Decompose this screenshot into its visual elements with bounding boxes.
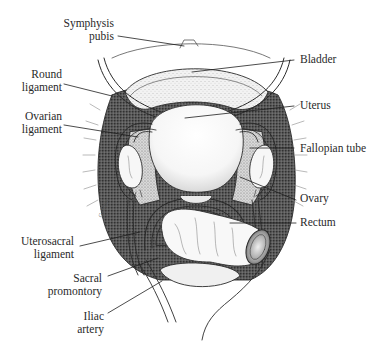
- label-uterosacral-ligament: Uterosacral ligament: [21, 235, 74, 260]
- anatomy-diagram: Gebhart Symphysis pubis Round ligament O…: [0, 0, 384, 350]
- leader-round: [64, 84, 112, 96]
- label-ovarian-ligament: Ovarian ligament: [22, 110, 62, 135]
- label-symphysis-pubis: Symphysis pubis: [64, 17, 115, 42]
- label-uterus: Uterus: [300, 99, 331, 112]
- label-iliac-artery: Iliac artery: [77, 310, 104, 335]
- symphysis-pubis-shape: [112, 44, 270, 58]
- label-sacral-promontory: Sacral promontory: [48, 272, 102, 297]
- label-fallopian-tube: Fallopian tube: [300, 142, 366, 155]
- uterus-shape: [149, 105, 243, 193]
- leader-iliac: [108, 281, 162, 313]
- label-round-ligament: Round ligament: [22, 68, 62, 93]
- label-ovary: Ovary: [300, 192, 329, 205]
- label-rectum: Rectum: [300, 216, 336, 229]
- label-bladder: Bladder: [300, 53, 336, 66]
- leader-bladder: [192, 60, 294, 72]
- leader-symphysis: [118, 36, 184, 46]
